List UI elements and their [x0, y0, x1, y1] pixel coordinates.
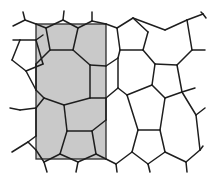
tile-edge [118, 88, 127, 95]
tile-edge [10, 108, 20, 110]
tile-edge [152, 64, 155, 85]
tile-edge [143, 32, 148, 50]
tile-edge [44, 162, 47, 172]
tile-edge [76, 162, 78, 172]
tile-edge [117, 18, 133, 28]
tile-edge [106, 58, 118, 66]
tile-edge [186, 150, 200, 162]
tile-edge [165, 20, 187, 30]
tile-edge [106, 24, 117, 28]
tile-edge [127, 85, 152, 95]
tile-edge [90, 65, 106, 66]
tile-edge [177, 65, 182, 92]
tile-edge [116, 164, 117, 172]
tile-edge [116, 152, 132, 164]
tile-edge [118, 50, 120, 58]
tile-edge [23, 12, 25, 20]
tile-edge [165, 152, 186, 162]
tile-edge [182, 88, 195, 92]
tile-edge [132, 130, 138, 152]
tile-edge [12, 142, 28, 152]
tile-edge [155, 64, 177, 65]
tile-edge [127, 95, 138, 130]
tile-edge [196, 108, 205, 115]
tile-edge [106, 159, 116, 164]
tile-edge [187, 14, 203, 20]
tile-edge [12, 40, 20, 60]
tile-edge [20, 108, 36, 110]
tile-edge [160, 130, 165, 152]
tile-edge [196, 115, 200, 150]
tile-edge [117, 28, 120, 50]
shaded-region [36, 24, 106, 159]
tile-edge [186, 162, 187, 172]
tile-edge [165, 92, 182, 98]
tile-edge [106, 88, 118, 98]
tile-edge [148, 164, 150, 172]
tile-edge [26, 71, 36, 90]
tessellation-diagram [0, 0, 216, 178]
tile-edge [132, 152, 148, 164]
tile-edge [160, 98, 165, 130]
tile-edge [25, 20, 36, 24]
tile-edge [201, 12, 203, 14]
tile-edge [182, 92, 196, 115]
tessellation-figure [0, 0, 216, 178]
tile-edge [143, 50, 155, 64]
tile-edge [133, 18, 165, 30]
tile-edge [148, 152, 165, 164]
tile-edge [13, 20, 25, 26]
tile-edge [28, 142, 36, 150]
tile-edge [12, 60, 26, 71]
tile-edge [177, 50, 192, 65]
tile-edge [63, 11, 64, 20]
tile-edge [28, 136, 36, 142]
tile-edge [152, 85, 165, 98]
tile-edge [187, 20, 192, 50]
